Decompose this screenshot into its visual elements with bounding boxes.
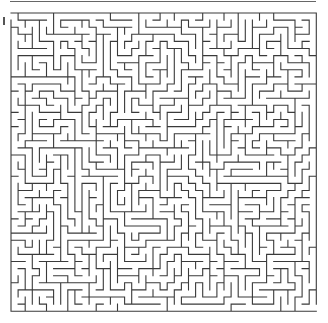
maze-grid bbox=[0, 0, 328, 323]
maze-walls bbox=[11, 13, 316, 311]
